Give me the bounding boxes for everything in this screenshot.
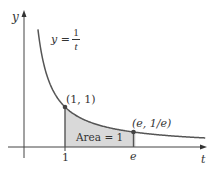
area-label: Area = 1: [76, 132, 123, 143]
plot-canvas: [0, 0, 214, 171]
tick-label-1: 1: [62, 152, 69, 163]
curve-label-y: y =: [51, 33, 70, 46]
x-axis-arrow-icon: [200, 145, 207, 150]
t-axis-label: t: [201, 154, 205, 165]
y-axis-label: y: [12, 11, 19, 23]
hyperbola-area-diagram: y t y = 1 t (1, 1) (e, 1/e) Area = 1 1 e: [0, 0, 214, 171]
point-e-1-over-e: [131, 130, 136, 135]
curve-label-fraction: 1 t: [72, 27, 80, 52]
point-1-1-label: (1, 1): [66, 94, 96, 105]
point-e-label: (e, 1/e): [132, 118, 171, 129]
fraction-denominator: t: [74, 41, 77, 52]
fraction-numerator: 1: [73, 27, 79, 38]
curve-label-lhs: y =: [51, 34, 70, 45]
y-axis-arrow-icon: [22, 10, 27, 17]
tick-label-e: e: [130, 151, 137, 162]
